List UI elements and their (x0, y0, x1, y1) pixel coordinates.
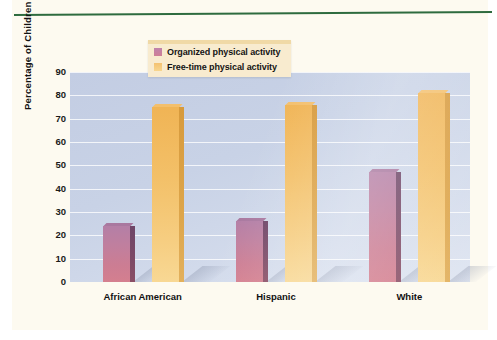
gridline (70, 119, 470, 120)
page-edge-left (0, 0, 12, 340)
plot-area (70, 72, 470, 282)
x-category-label: African American (103, 291, 181, 302)
bar-face (418, 93, 445, 282)
bar-side (396, 172, 401, 282)
y-tick-label: 20 (38, 230, 66, 240)
y-axis-title: Percentage of Children (22, 2, 33, 110)
y-tick-label: 40 (38, 184, 66, 194)
bar-face (103, 226, 130, 282)
bar-side (312, 105, 317, 282)
legend-label-free-time: Free-time physical activity (167, 62, 277, 72)
bar-face (236, 221, 263, 282)
bar-face (152, 107, 179, 282)
legend-top-bar (148, 40, 291, 44)
page-edge-right (488, 0, 496, 340)
chart-legend: Organized physical activity Free-time ph… (148, 40, 291, 77)
y-axis-tick-labels: 0102030405060708090 (36, 0, 66, 340)
x-category-label: White (396, 291, 422, 302)
y-tick-label: 30 (38, 207, 66, 217)
yellow-swatch-icon (154, 63, 162, 71)
purple-swatch-icon (154, 48, 162, 56)
bar-organized (236, 221, 263, 282)
bar-top (286, 102, 316, 105)
bar-face (369, 172, 396, 282)
bar-top (103, 223, 133, 226)
bar-free-time (418, 93, 445, 282)
bar-side (130, 226, 135, 282)
legend-item-organized: Organized physical activity (154, 45, 285, 58)
bar-shadow (182, 266, 230, 282)
y-tick-label: 80 (38, 90, 66, 100)
bar-organized (103, 226, 130, 282)
bar-top (419, 90, 449, 93)
legend-item-free-time: Free-time physical activity (154, 60, 285, 73)
bar-organized (369, 172, 396, 282)
y-tick-label: 50 (38, 160, 66, 170)
top-divider-rule (14, 11, 492, 16)
bar-shadow (315, 266, 363, 282)
y-tick-label: 60 (38, 137, 66, 147)
gridline (70, 142, 470, 143)
bar-side (445, 93, 450, 282)
page-edge-bottom (0, 330, 496, 340)
x-category-label: Hispanic (256, 291, 296, 302)
gridline (70, 189, 470, 190)
x-axis-category-labels: African AmericanHispanicWhite (70, 291, 470, 307)
bar-top (237, 218, 267, 221)
bar-free-time (152, 107, 179, 282)
bar-face (285, 105, 312, 282)
legend-label-organized: Organized physical activity (167, 47, 280, 57)
gridline (70, 212, 470, 213)
y-tick-label: 0 (38, 277, 66, 287)
y-tick-label: 10 (38, 254, 66, 264)
bar-top (370, 169, 400, 172)
gridline (70, 95, 470, 96)
bar-side (179, 107, 184, 282)
y-tick-label: 70 (38, 114, 66, 124)
gridline (70, 165, 470, 166)
bar-free-time (285, 105, 312, 282)
y-tick-label: 90 (38, 67, 66, 77)
bar-side (263, 221, 268, 282)
bar-top (152, 104, 182, 107)
